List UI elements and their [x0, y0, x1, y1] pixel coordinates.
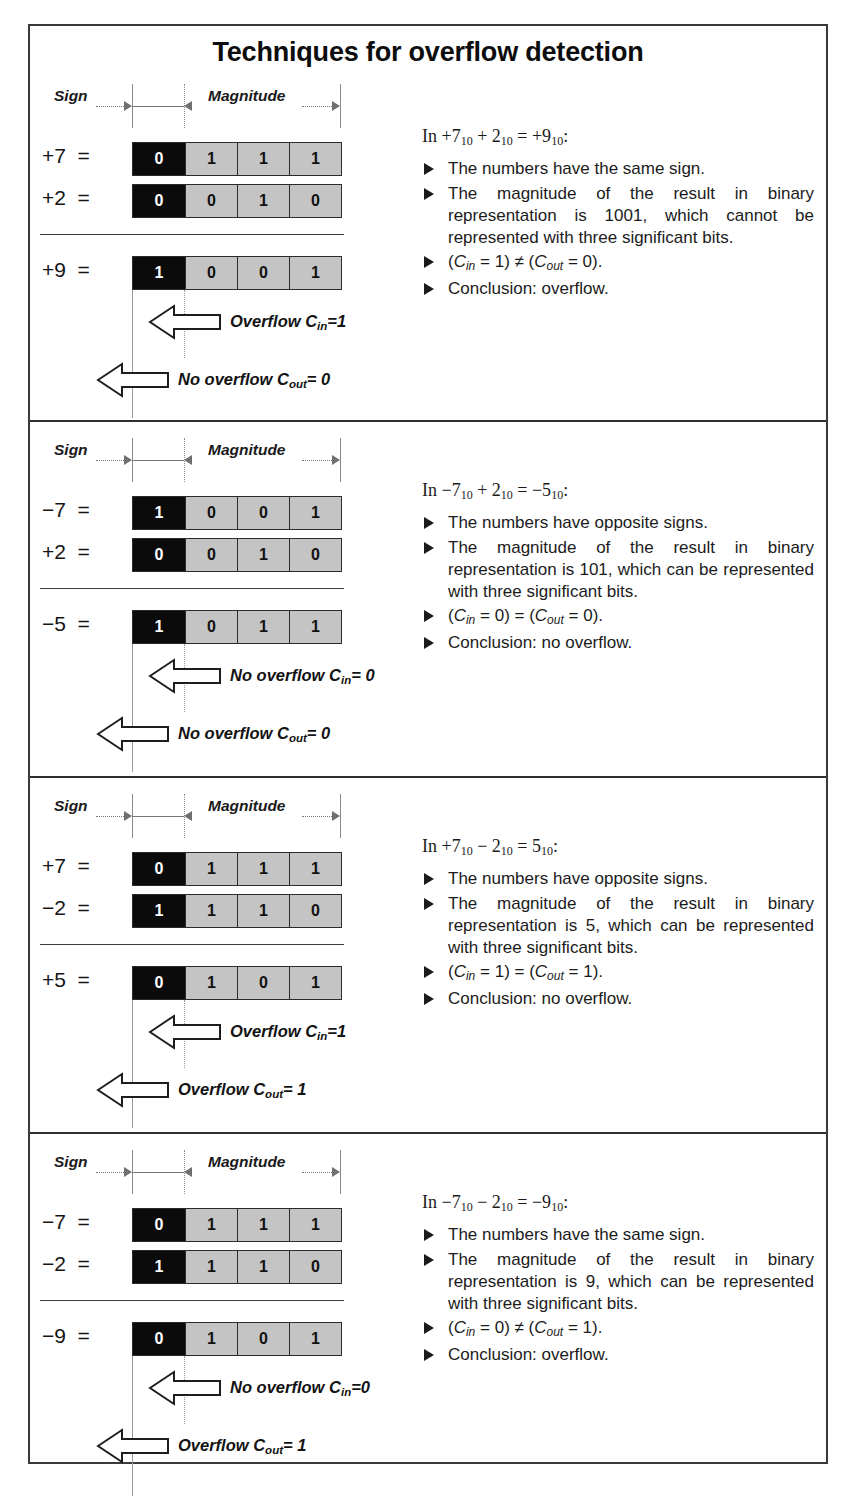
bullet-conclusion: Conclusion: overflow.	[422, 1344, 814, 1366]
ruler-label-magnitude: Magnitude	[208, 1153, 286, 1171]
result-row-magnitude-bit-1: 0	[185, 611, 237, 643]
arrow-cout-icon	[96, 1070, 170, 1110]
explanation-heading: In +710 + 210 = +910:	[422, 126, 814, 149]
operand-row-1-magnitude-bit-3: 1	[289, 497, 341, 529]
operand-row-1-magnitude-bit-2: 1	[237, 853, 289, 885]
explanation-heading: In −710 + 210 = −510:	[422, 480, 814, 503]
ruler-label-sign: Sign	[54, 797, 88, 815]
explanation-2: In −710 + 210 = −510:The numbers have op…	[422, 480, 814, 656]
ruler-arrow-mag-left	[184, 1167, 192, 1177]
ruler-arrow-mag-left	[184, 811, 192, 821]
bullet-1: The numbers have the same sign.	[422, 1224, 814, 1246]
example-block-3: SignMagnitude+7 =0111−2 =1110+5 =0101Ove…	[30, 776, 826, 1132]
operand-row-2-magnitude-bit-1: 0	[185, 539, 237, 571]
bullet-triangle-icon	[424, 1322, 434, 1334]
sum-rule	[40, 234, 344, 235]
bullet-conclusion-text: Conclusion: no overflow.	[448, 989, 632, 1008]
bullet-conclusion: Conclusion: no overflow.	[422, 988, 814, 1010]
operand-row-2-sign-bit: 1	[133, 1251, 185, 1283]
operand-row-1-sign-bit: 0	[133, 853, 185, 885]
explanation-heading: In −710 − 210 = −910:	[422, 1192, 814, 1215]
operand-row-2-magnitude-bit-2: 1	[237, 539, 289, 571]
arrow-cout-icon	[96, 1426, 170, 1466]
bullet-2: The magnitude of the result in binary re…	[422, 1249, 814, 1316]
ruler-line-sign	[96, 460, 124, 461]
operand-row-2-magnitude-bit-1: 1	[185, 895, 237, 927]
operand-row-2-label: −2 =	[42, 1252, 128, 1276]
bullet-triangle-icon	[424, 256, 434, 268]
operand-row-2-magnitude-bit-2: 1	[237, 895, 289, 927]
diagram-2: SignMagnitude−7 =1001+2 =0010−5 =1011No …	[30, 422, 402, 776]
operand-row-2-bits: 1110	[132, 894, 342, 928]
operand-row-1-magnitude-bit-3: 1	[289, 143, 341, 175]
operand-row-2-magnitude-bit-1: 1	[185, 1251, 237, 1283]
result-row-magnitude-bit-3: 1	[289, 967, 341, 999]
ruler-line-span	[132, 1172, 184, 1173]
operand-row-1-label: +7 =	[42, 854, 128, 878]
explanation-bullets: The numbers have opposite signs.The magn…	[422, 512, 814, 653]
arrow-cin-icon	[148, 1012, 222, 1052]
operand-row-1-label: −7 =	[42, 498, 128, 522]
operand-row-2-sign-bit: 0	[133, 539, 185, 571]
operand-row-2-magnitude-bit-3: 0	[289, 895, 341, 927]
arrow-cin-icon	[148, 656, 222, 696]
bullet-triangle-icon	[424, 1254, 434, 1266]
bullet-conclusion-text: Conclusion: overflow.	[448, 1345, 609, 1364]
ruler-arrow-mag-right	[332, 1167, 340, 1177]
label-cout: No overflow Cout= 0	[178, 370, 330, 390]
result-row-label: +5 =	[42, 968, 128, 992]
bullet-triangle-icon	[424, 188, 434, 200]
ruler-arrow-mag-left	[184, 101, 192, 111]
ruler-tick-2	[340, 794, 341, 838]
ruler-line-sign	[96, 106, 124, 107]
ruler-line-magnitude	[302, 460, 332, 461]
label-cin: No overflow Cin=0	[230, 1378, 370, 1398]
ruler-arrow-mag-right	[332, 455, 340, 465]
operand-row-1-magnitude-bit-1: 0	[185, 497, 237, 529]
carry-comparison: (Cin = 1) = (Cout = 1).	[422, 961, 814, 985]
example-block-1: SignMagnitude+7 =0111+2 =0010+9 =1001Ove…	[30, 68, 826, 420]
operand-row-2-bits: 1110	[132, 1250, 342, 1284]
bullet-conclusion: Conclusion: no overflow.	[422, 632, 814, 654]
operand-row-1-bits: 0111	[132, 1208, 342, 1242]
bullet-triangle-icon	[424, 517, 434, 529]
ruler-arrow-mag-left	[184, 455, 192, 465]
carry-comparison-text: (Cin = 0) = (Cout = 0).	[448, 606, 603, 625]
result-row-magnitude-bit-1: 0	[185, 257, 237, 289]
ruler-label-magnitude: Magnitude	[208, 441, 286, 459]
result-row-magnitude-bit-2: 0	[237, 257, 289, 289]
operand-row-2-sign-bit: 0	[133, 185, 185, 217]
label-cin: Overflow Cin=1	[230, 312, 346, 332]
diagram-4: SignMagnitude−7 =0111−2 =1110−9 =0101No …	[30, 1134, 402, 1492]
diagram-1: SignMagnitude+7 =0111+2 =0010+9 =1001Ove…	[30, 68, 402, 420]
result-row-magnitude-bit-3: 1	[289, 257, 341, 289]
bullet-1-text: The numbers have opposite signs.	[448, 869, 708, 888]
page-title: Techniques for overflow detection	[30, 26, 826, 68]
ruler-label-sign: Sign	[54, 1153, 88, 1171]
ruler-arrow-mag-right	[332, 811, 340, 821]
result-row-bits: 1011	[132, 610, 342, 644]
sign-magnitude-ruler: SignMagnitude	[30, 82, 370, 128]
result-row-magnitude-bit-3: 1	[289, 611, 341, 643]
operand-row-1-bits: 1001	[132, 496, 342, 530]
operand-row-1-bits: 0111	[132, 852, 342, 886]
bullet-triangle-icon	[424, 898, 434, 910]
carry-comparison-text: (Cin = 0) ≠ (Cout = 1).	[448, 1318, 602, 1337]
diagram-3: SignMagnitude+7 =0111−2 =1110+5 =0101Ove…	[30, 778, 402, 1132]
sign-magnitude-ruler: SignMagnitude	[30, 1148, 370, 1194]
ruler-label-sign: Sign	[54, 441, 88, 459]
operand-row-2-magnitude-bit-3: 0	[289, 1251, 341, 1283]
result-row-label: −9 =	[42, 1324, 128, 1348]
ruler-arrow-sign-right	[124, 1167, 132, 1177]
ruler-label-sign: Sign	[54, 87, 88, 105]
bullet-2: The magnitude of the result in binary re…	[422, 537, 814, 604]
ruler-tick-2	[340, 84, 341, 128]
operand-row-1-magnitude-bit-3: 1	[289, 853, 341, 885]
bullet-triangle-icon	[424, 1349, 434, 1361]
bullet-triangle-icon	[424, 637, 434, 649]
ruler-line-sign	[96, 1172, 124, 1173]
bullet-1-text: The numbers have the same sign.	[448, 1225, 705, 1244]
carry-comparison: (Cin = 1) ≠ (Cout = 0).	[422, 251, 814, 275]
result-row-label: −5 =	[42, 612, 128, 636]
arrow-cout-icon	[96, 360, 170, 400]
